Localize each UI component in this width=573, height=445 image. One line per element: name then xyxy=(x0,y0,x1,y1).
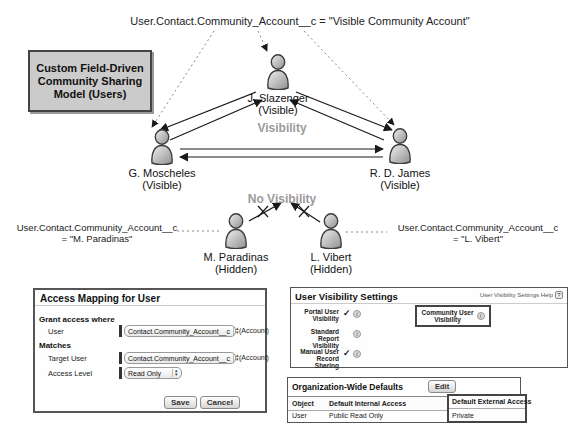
required-field-indicator xyxy=(119,352,122,364)
target-user-select[interactable]: Contact.Community_Account__c ▴▾ xyxy=(124,352,236,364)
select-value: Read Only xyxy=(128,370,169,377)
user-name: J. Slazenger xyxy=(233,92,323,104)
info-icon[interactable]: i xyxy=(353,350,361,358)
org-wide-defaults-panel: Organization-Wide Defaults Edit Object D… xyxy=(287,377,521,423)
owd-row-internal: Public Read Only xyxy=(329,412,383,419)
community-user-visibility-highlight: Community User Visibility i xyxy=(415,305,491,327)
user-field-suffix: (Account) xyxy=(239,327,269,334)
user-status: (Visible) xyxy=(355,179,445,191)
user-label-moscheles: G. Moscheles (Visible) xyxy=(117,167,207,191)
right-annotation-line1: User.Contact.Community_Account__c xyxy=(388,222,568,233)
manual-user-record-sharing-checkbox[interactable]: ✓ xyxy=(343,349,351,358)
user-visibility-settings-panel: User Visibility Settings User Visibility… xyxy=(290,287,568,368)
matches-section-label: Matches xyxy=(39,341,71,350)
page: User.Contact.Community_Account__c = "Vis… xyxy=(0,0,573,445)
save-button[interactable]: Save xyxy=(164,396,197,409)
top-annotation: User.Contact.Community_Account__c = "Vis… xyxy=(57,15,543,27)
user-status: (Visible) xyxy=(117,179,207,191)
user-label-slazenger: J. Slazenger (Visible) xyxy=(233,92,323,116)
visibility-label: Visibility xyxy=(232,121,332,135)
user-name: R. D. James xyxy=(355,167,445,179)
visibility-settings-title: User Visibility Settings xyxy=(295,291,398,302)
left-annotation: User.Contact.Community_Account__c = "M. … xyxy=(7,222,187,244)
community-user-visibility-label: Community User Visibility xyxy=(422,309,474,323)
info-icon[interactable]: i xyxy=(353,330,361,338)
portal-user-visibility-checkbox[interactable]: ✓ xyxy=(343,309,351,318)
access-level-label: Access Level xyxy=(48,369,92,378)
select-value: Contact.Community_Account__c xyxy=(128,355,230,362)
grant-access-section-label: Grant access where xyxy=(39,315,115,324)
standard-report-visibility-label: Standard Report Visibility xyxy=(293,328,339,349)
user-field-label: User xyxy=(48,327,64,336)
cancel-button[interactable]: Cancel xyxy=(200,396,240,409)
external-access-highlight: Default External Access Private xyxy=(447,394,527,423)
access-level-select[interactable]: Read Only ▴▾ xyxy=(124,367,182,379)
user-name: L. Vibert xyxy=(286,251,376,263)
user-label-vibert: L. Vibert (Hidden) xyxy=(286,251,376,275)
help-icon[interactable]: ? xyxy=(555,291,563,299)
owd-col-object: Object xyxy=(292,400,314,407)
owd-col-internal: Default Internal Access xyxy=(329,400,406,407)
x-mark-icon xyxy=(299,206,309,217)
owd-title: Organization-Wide Defaults xyxy=(292,382,403,392)
right-annotation: User.Contact.Community_Account__c = "L. … xyxy=(388,222,568,244)
right-annotation-line2: = "L. Vibert" xyxy=(388,233,568,244)
user-label-james: R. D. James (Visible) xyxy=(355,167,445,191)
left-annotation-line2: = "M. Paradinas" xyxy=(7,233,187,244)
user-status: (Visible) xyxy=(233,104,323,116)
user-icon-moscheles xyxy=(152,130,172,165)
owd-row-object: User xyxy=(292,412,307,419)
left-annotation-line1: User.Contact.Community_Account__c xyxy=(7,222,187,233)
user-status: (Hidden) xyxy=(286,263,376,275)
user-icon-vibert xyxy=(321,214,341,249)
user-icon-slazenger xyxy=(268,55,288,90)
access-mapping-title: Access Mapping for User xyxy=(40,293,160,304)
help-link-text: User Visibility Settings Help xyxy=(480,292,553,298)
required-field-indicator xyxy=(119,325,122,337)
user-icon-paradinas xyxy=(226,214,246,249)
stepper-icon: ▴▾ xyxy=(172,369,178,376)
no-visibility-label: No Visibility xyxy=(232,192,332,206)
access-mapping-panel: Access Mapping for User Grant access whe… xyxy=(33,288,267,413)
diagram-title-box: Custom Field-Driven Community Sharing Mo… xyxy=(28,50,152,112)
target-user-label: Target User xyxy=(48,354,87,363)
target-user-suffix: (Account) xyxy=(239,354,269,361)
user-icon-james xyxy=(390,129,410,164)
select-value: Contact.Community_Account__c xyxy=(128,328,230,335)
user-name: M. Paradinas xyxy=(191,251,281,263)
info-icon[interactable]: i xyxy=(477,312,485,320)
user-label-paradinas: M. Paradinas (Hidden) xyxy=(191,251,281,275)
owd-col-external: Default External Access xyxy=(452,398,532,405)
diagram-title-text: Custom Field-Driven Community Sharing Mo… xyxy=(32,62,148,101)
required-field-indicator xyxy=(119,367,122,379)
visibility-settings-help-link[interactable]: User Visibility Settings Help ? xyxy=(480,291,563,299)
user-field-select[interactable]: Contact.Community_Account__c ▴▾ xyxy=(124,325,236,337)
user-name: G. Moscheles xyxy=(117,167,207,179)
owd-row-external: Private xyxy=(452,412,474,419)
edit-button[interactable]: Edit xyxy=(428,380,456,393)
portal-user-visibility-label: Portal User Visibility xyxy=(293,308,339,322)
user-status: (Hidden) xyxy=(191,263,281,275)
manual-user-record-sharing-label: Manual User Record Sharing xyxy=(293,348,339,369)
info-icon[interactable]: i xyxy=(353,310,361,318)
